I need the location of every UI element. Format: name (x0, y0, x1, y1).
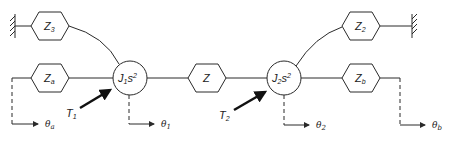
z3-to-j1-link (69, 26, 119, 64)
j1-inertia: J1s2 (113, 61, 147, 95)
t1-torque: T1 (66, 90, 110, 120)
za-element: Za (31, 64, 69, 92)
right-ground-icon (380, 14, 417, 38)
theta-b-label: θb (432, 120, 442, 132)
theta-1-output: θ1 (129, 95, 171, 131)
z-label: Z (202, 72, 211, 84)
theta-1-label: θ1 (161, 119, 171, 131)
t2-label: T2 (219, 109, 230, 122)
z-element: Z (188, 64, 226, 92)
theta-b-output: θb (380, 78, 442, 132)
t1-label: T1 (66, 107, 77, 120)
zb-element: Zb (342, 64, 380, 92)
theta-2-label: θ2 (316, 120, 326, 132)
j2-inertia: J2s2 (267, 61, 301, 95)
mechanical-system-diagram: Z3 θa Za J1s2 T1 θ1 Z J2s2 (0, 0, 453, 141)
theta-2-output: θ2 (284, 95, 326, 132)
t2-torque: T2 (219, 92, 265, 122)
left-ground-icon (10, 14, 31, 38)
z2-element: Z2 (342, 12, 380, 40)
theta-a-label: θa (45, 119, 55, 131)
z3-element: Z3 (31, 12, 69, 40)
j2-to-z2-link (296, 27, 342, 66)
